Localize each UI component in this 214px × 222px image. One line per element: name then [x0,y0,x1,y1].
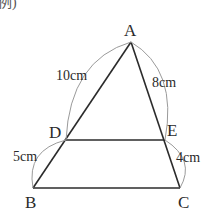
vertex-label-d: D [49,124,61,141]
vertex-label-a: A [124,22,136,39]
length-label-db: 5cm [13,150,37,164]
length-label-ad: 10cm [56,69,87,83]
side-ac [131,42,180,188]
side-ab [33,42,131,188]
vertex-label-c: C [178,194,189,211]
length-label-ae: 8cm [152,76,176,90]
length-label-ec: 4cm [176,151,200,165]
triangle-diagram [0,0,214,222]
caption: 例) [0,0,17,10]
vertex-label-b: B [25,194,36,211]
vertex-label-e: E [167,122,177,139]
